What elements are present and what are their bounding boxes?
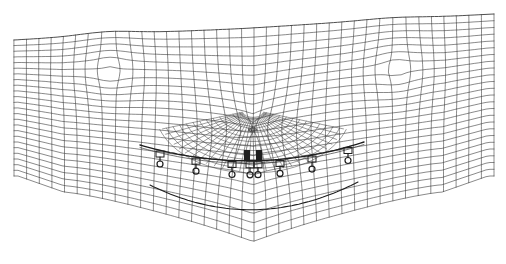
mesh-edge (352, 21, 355, 210)
mesh-edge (97, 32, 102, 199)
nose-block (244, 150, 250, 160)
mesh-edge (128, 31, 133, 204)
mesh-edge (261, 115, 321, 153)
bracket-fixture (192, 158, 200, 174)
mesh-edge (85, 33, 90, 196)
mesh-edge (39, 39, 40, 184)
mesh-edge (14, 102, 494, 138)
bracket-fixture (308, 156, 316, 172)
mesh-edge (115, 31, 120, 201)
mesh-grid (14, 14, 494, 241)
wireframe-mesh (0, 0, 506, 264)
mesh-edge (179, 115, 244, 149)
mesh-edge (431, 17, 434, 194)
mesh-edge (229, 29, 241, 233)
mesh-edge (406, 17, 411, 198)
mesh-edge (141, 32, 145, 208)
mesh-edge (444, 16, 446, 191)
wireframe-canvas (0, 0, 506, 264)
mesh-edge (248, 28, 254, 241)
mesh-edge (363, 20, 367, 207)
mesh-edge (140, 142, 364, 161)
mesh-edge (339, 22, 342, 214)
nose-block (256, 150, 262, 160)
mesh-edge (375, 19, 380, 204)
mesh-edge (166, 32, 169, 215)
mesh-edge (62, 36, 64, 192)
mesh-edge (51, 38, 52, 188)
mesh-edge (74, 35, 78, 194)
mesh-edge (418, 17, 423, 196)
mesh-edge (153, 32, 156, 211)
mesh-edge (456, 16, 457, 187)
